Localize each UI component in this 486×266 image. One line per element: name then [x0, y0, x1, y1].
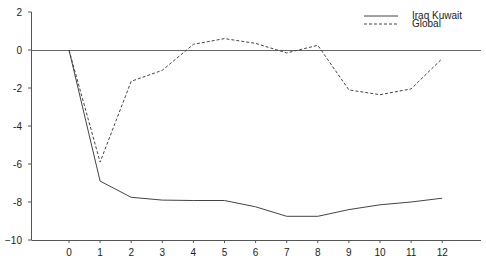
x-tick-label: 10 [374, 247, 386, 258]
y-tick-label: 2 [16, 7, 22, 18]
x-tick-label: 2 [128, 247, 134, 258]
series-line-global [69, 39, 442, 163]
legend: Iraq KuwaitGlobal [364, 10, 462, 29]
x-tick-label: 5 [222, 247, 228, 258]
x-tick-label: 8 [315, 247, 321, 258]
legend-label: Global [412, 18, 441, 29]
axes: 20-2-4-6-8−100123456789101112 [5, 7, 481, 259]
y-tick-label: −10 [5, 235, 22, 246]
y-tick-label: -2 [13, 83, 22, 94]
line-chart: 20-2-4-6-8−100123456789101112 Iraq Kuwai… [0, 0, 486, 266]
x-tick-label: 9 [346, 247, 352, 258]
x-tick-label: 7 [284, 247, 290, 258]
x-tick-label: 0 [66, 247, 72, 258]
y-tick-label: -6 [13, 159, 22, 170]
x-tick-label: 1 [97, 247, 103, 258]
y-tick-label: 0 [16, 45, 22, 56]
x-tick-label: 6 [253, 247, 259, 258]
x-tick-label: 12 [437, 247, 449, 258]
series-lines [69, 39, 442, 217]
x-tick-label: 4 [191, 247, 197, 258]
y-tick-label: -4 [13, 121, 22, 132]
series-line-iraq-kuwait [69, 50, 442, 216]
x-tick-label: 3 [160, 247, 166, 258]
y-tick-label: -8 [13, 197, 22, 208]
x-tick-label: 11 [406, 247, 417, 258]
